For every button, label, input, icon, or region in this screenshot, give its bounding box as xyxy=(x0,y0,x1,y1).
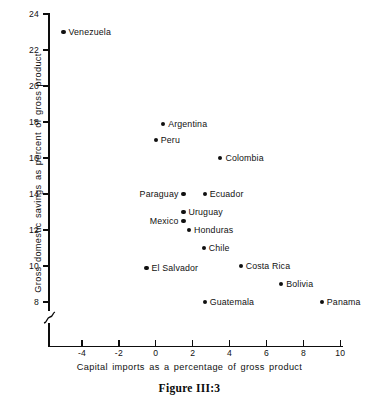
y-tick-18 xyxy=(43,121,50,122)
axis-break-icon xyxy=(43,311,56,324)
data-point-label-honduras: Honduras xyxy=(194,226,233,235)
y-tick-20 xyxy=(43,85,50,86)
y-tick-24 xyxy=(43,13,50,14)
data-point-label-chile: Chile xyxy=(209,244,230,253)
data-point-paraguay xyxy=(181,192,185,196)
data-point-label-ecuador: Ecuador xyxy=(210,190,244,199)
x-tick-4 xyxy=(229,340,230,347)
data-point-label-guatemala: Guatemala xyxy=(210,298,254,307)
x-tick-label-4: 4 xyxy=(215,349,245,358)
data-point-label-mexico: Mexico xyxy=(150,217,179,226)
x-tick-2 xyxy=(192,340,193,347)
y-tick-10 xyxy=(43,265,50,266)
x-tick-label-6: 6 xyxy=(252,349,282,358)
x-tick-6 xyxy=(266,340,267,347)
y-tick-16 xyxy=(43,157,50,158)
figure-container: 81012141618202224 -4-20246810 VenezuelaA… xyxy=(0,0,379,405)
data-point-label-peru: Peru xyxy=(161,136,180,145)
data-point-label-bolivia: Bolivia xyxy=(286,280,313,289)
y-tick-12 xyxy=(43,229,50,230)
data-point-chile xyxy=(202,246,206,250)
data-point-label-argentina: Argentina xyxy=(168,119,207,128)
x-tick--2 xyxy=(118,340,119,347)
y-axis-line-lower-segment xyxy=(48,323,50,347)
data-point-label-venezuela: Venezuela xyxy=(69,28,111,37)
x-tick-label-10: 10 xyxy=(325,349,355,358)
x-tick--4 xyxy=(81,340,82,347)
data-point-label-costa-rica: Costa Rica xyxy=(246,262,291,271)
x-axis-line xyxy=(48,346,343,348)
x-tick-label--2: -2 xyxy=(104,349,134,358)
data-point-venezuela xyxy=(61,30,65,34)
data-point-label-colombia: Colombia xyxy=(225,154,263,163)
x-tick-0 xyxy=(155,340,156,347)
y-tick-14 xyxy=(43,193,50,194)
data-point-panama xyxy=(320,300,324,304)
data-point-colombia xyxy=(218,156,222,160)
x-tick-8 xyxy=(303,340,304,347)
data-point-ecuador xyxy=(203,192,207,196)
data-point-label-paraguay: Paraguay xyxy=(140,190,179,199)
x-tick-label-8: 8 xyxy=(288,349,318,358)
y-tick-22 xyxy=(43,49,50,50)
data-point-argentina xyxy=(161,122,165,126)
data-point-guatemala xyxy=(203,300,207,304)
x-tick-label-0: 0 xyxy=(141,349,171,358)
data-point-uruguay xyxy=(181,210,185,214)
data-point-honduras xyxy=(187,228,191,232)
data-point-peru xyxy=(154,138,158,142)
x-tick-label-2: 2 xyxy=(178,349,208,358)
scatter-plot: 81012141618202224 -4-20246810 VenezuelaA… xyxy=(0,0,379,360)
data-point-costa-rica xyxy=(239,264,243,268)
x-axis-title: Capital imports as a percentage of gross… xyxy=(0,362,379,372)
figure-caption: Figure III:3 xyxy=(0,382,379,394)
y-axis-title: Gross domestic savings as percent of gro… xyxy=(33,23,43,323)
data-point-el-salvador xyxy=(144,266,148,270)
y-tick-label-24: 24 xyxy=(0,10,39,19)
data-point-mexico xyxy=(181,219,185,223)
data-point-label-uruguay: Uruguay xyxy=(188,208,222,217)
y-tick-8 xyxy=(43,301,50,302)
data-point-bolivia xyxy=(279,282,283,286)
data-point-label-panama: Panama xyxy=(327,298,361,307)
data-point-label-el-salvador: El Salvador xyxy=(152,263,199,272)
x-tick-label--4: -4 xyxy=(67,349,97,358)
x-tick-10 xyxy=(340,340,341,347)
